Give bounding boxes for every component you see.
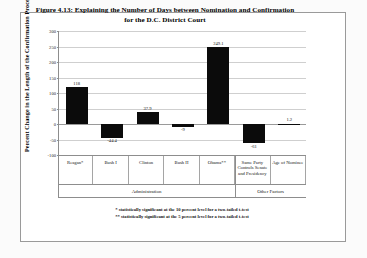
figure-footnotes: * statistically significant at the 10 pe… <box>58 207 306 220</box>
bar-slot: 1.2 <box>272 31 307 155</box>
bar <box>137 112 159 124</box>
y-tick-label-150: 150 <box>49 75 56 80</box>
bar-value-label: -61 <box>251 144 257 149</box>
bar <box>172 124 194 127</box>
group-label-text: Administration <box>132 189 162 194</box>
bar-value-label: -9 <box>181 127 185 132</box>
bar <box>207 47 229 124</box>
category-label-line: Bush II <box>175 160 189 166</box>
bar-value-label: 1.2 <box>286 117 292 122</box>
bar-slot: 118 <box>59 31 94 155</box>
category-group-separator <box>235 156 236 184</box>
y-tick-label--100: -100 <box>48 153 56 158</box>
category-axis-row: Reagan*Bush IClintonBush IIObama**Same P… <box>58 155 306 185</box>
y-tick-label-50: 50 <box>51 106 56 111</box>
y-tick-label-300: 300 <box>49 29 56 34</box>
category-label-line: Reagan* <box>67 160 83 166</box>
category-label-6: Same PartyControls Senateand Presidency <box>235 156 270 184</box>
figure-page: Figure 4.13: Explaining the Number of Da… <box>0 0 367 258</box>
category-label-3: Clinton <box>129 156 164 184</box>
group-axis-row: AdministrationOther Factors <box>58 185 306 198</box>
y-tick-label-200: 200 <box>49 60 56 65</box>
y-tick-label-0: 0 <box>54 122 56 127</box>
category-label-4: Bush II <box>164 156 199 184</box>
category-label-2: Bush I <box>93 156 128 184</box>
plot-area: 300250200150100500-50-100 118-44.437.9-9… <box>58 31 306 155</box>
y-tick-label--50: -50 <box>50 137 56 142</box>
chart-title-line-2: for the D.C. District Court <box>30 16 300 26</box>
chart-title: Figure 4.13: Explaining the Number of Da… <box>30 6 300 25</box>
bar-value-label: 37.9 <box>144 106 152 111</box>
category-label-line: Bush I <box>104 160 116 166</box>
category-label-1: Reagan* <box>58 156 93 184</box>
group-separator <box>235 185 236 197</box>
bar-slot: -61 <box>236 31 271 155</box>
bar-slot: 249.1 <box>201 31 236 155</box>
bar <box>66 87 88 124</box>
bar <box>278 124 300 126</box>
category-label-5: Obama** <box>200 156 235 184</box>
y-tick-label-250: 250 <box>49 44 56 49</box>
bar-slot: -9 <box>165 31 200 155</box>
group-label-2: Other Factors <box>235 185 306 197</box>
bar-slot: -44.4 <box>94 31 129 155</box>
category-label-line: Clinton <box>139 160 153 166</box>
bar <box>243 124 265 143</box>
bar-series: 118-44.437.9-9249.1-611.2 <box>59 31 306 155</box>
group-label-1: Administration <box>58 185 235 197</box>
y-axis-title: Percent Change in the Length of the Conf… <box>24 2 30 152</box>
group-label-text: Other Factors <box>257 189 284 194</box>
category-label-7: Age of Nominee <box>271 156 306 184</box>
bar-value-label: 249.1 <box>213 41 223 46</box>
category-label-line: Obama** <box>208 160 226 166</box>
category-label-line: and Presidency <box>237 171 267 177</box>
bar <box>101 124 123 138</box>
bar-slot: 37.9 <box>130 31 165 155</box>
footnote-one: * statistically significant at the 10 pe… <box>58 207 306 214</box>
y-tick-label-100: 100 <box>49 91 56 96</box>
chart-title-line-1: Figure 4.13: Explaining the Number of Da… <box>36 6 294 14</box>
category-label-line: Controls Senate <box>237 165 267 171</box>
bar-value-label: -44.4 <box>107 138 117 143</box>
category-label-line: Age of Nominee <box>272 160 303 166</box>
footnote-two: ** statistically significant at the 5 pe… <box>58 214 306 221</box>
bar-value-label: 118 <box>73 81 80 86</box>
